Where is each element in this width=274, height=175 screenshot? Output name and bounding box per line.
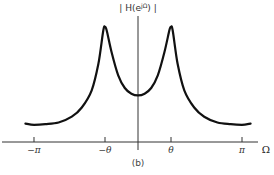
x-tick-label: −π [27, 145, 42, 155]
x-tick-label: −θ [99, 145, 113, 155]
x-ticks: −π−θθπ [27, 137, 246, 155]
figure-caption: (b) [132, 158, 145, 168]
magnitude-response-chart: −π−θθπ | H(ejΩ) | Ω (b) [0, 0, 274, 175]
x-tick-label: π [238, 145, 246, 155]
x-tick-label: θ [168, 145, 174, 155]
y-axis-label: | H(ejΩ) | [119, 2, 156, 13]
x-axis-label: Ω [262, 144, 270, 155]
